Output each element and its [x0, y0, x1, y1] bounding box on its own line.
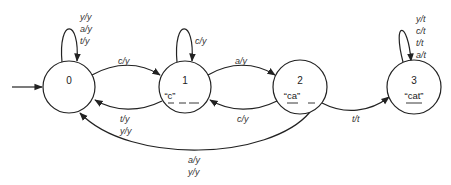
- edge-2-3: [322, 97, 389, 110]
- edge-1-0: [95, 100, 162, 109]
- state-circle: [273, 60, 327, 114]
- edge-1-0-label: t/y: [120, 114, 130, 124]
- state-0: 0: [43, 61, 95, 113]
- state-string: “cat”: [405, 90, 424, 101]
- edge-2-0-label: a/y: [188, 155, 201, 165]
- edge-label: a/t: [416, 50, 427, 60]
- edge-1-0-label: y/y: [119, 126, 132, 136]
- state-1: 1 “c”: [159, 61, 211, 113]
- edge-2-1-label: c/y: [237, 114, 249, 124]
- state-circle: [159, 61, 211, 113]
- state-string: “ca”: [284, 90, 300, 101]
- edge-label: y/t: [415, 14, 426, 24]
- edge-label: a/y: [80, 24, 93, 34]
- edge-2-0-label: y/y: [187, 167, 200, 177]
- edge-label: t/t: [416, 38, 424, 48]
- state-id: 2: [297, 75, 303, 86]
- state-id: 0: [66, 75, 72, 86]
- edge-1-2-label: a/y: [235, 56, 248, 66]
- edge-2-1: [210, 100, 277, 109]
- edge-1-1-label: c/y: [195, 36, 207, 46]
- edge-2-3-label: t/t: [352, 114, 360, 124]
- state-3: 3 “cat”: [387, 60, 441, 114]
- state-id: 3: [411, 75, 417, 86]
- edge-3-3-labels: y/t c/t t/t a/t: [415, 14, 427, 60]
- edge-1-2: [208, 65, 275, 75]
- state-diagram: y/y a/y t/y c/y c/y t/y y/y a/y c/y t/t …: [0, 0, 451, 185]
- edge-1-1-loop: [177, 29, 193, 62]
- edge-label: t/y: [80, 36, 90, 46]
- state-circle: [387, 60, 441, 114]
- edge-0-1-label: c/y: [118, 56, 130, 66]
- edge-0-0-labels: y/y a/y t/y: [79, 12, 93, 46]
- state-string: “c”: [164, 90, 175, 101]
- state-circle: [43, 61, 95, 113]
- edge-label: c/t: [416, 26, 426, 36]
- edge-label: y/y: [79, 12, 92, 22]
- state-2: 2 “ca”: [273, 60, 327, 114]
- edge-0-0-loop: [62, 29, 78, 62]
- edge-3-3-loop: [399, 30, 411, 62]
- edge-2-0: [80, 112, 310, 150]
- edge-0-1: [92, 65, 160, 75]
- state-id: 1: [182, 75, 188, 86]
